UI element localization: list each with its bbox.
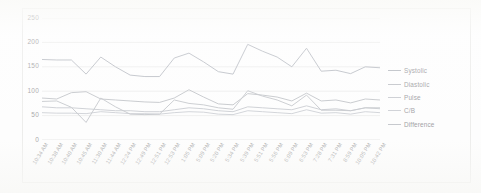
y-axis: 050100150200250 (20, 18, 39, 140)
chart-container: 050100150200250 10:34 AM10:38 AM10:40 AM… (0, 0, 481, 193)
legend-label: Systolic (404, 67, 427, 74)
legend-label: Pulse (404, 94, 421, 101)
legend-label: Difference (404, 121, 435, 128)
legend-item-systolic[interactable]: Systolic (388, 64, 468, 77)
series-line-diastolic (42, 90, 380, 105)
y-axis-tick-label: 150 (28, 63, 39, 70)
legend-item-pulse[interactable]: Pulse (388, 91, 468, 104)
series-line-systolic (42, 44, 380, 76)
legend-item-c-b[interactable]: C/B (388, 104, 468, 117)
y-axis-tick-label: 200 (28, 39, 39, 46)
legend-swatch-icon (388, 110, 401, 111)
y-axis-tick-label: 50 (31, 112, 39, 119)
legend-item-diastolic[interactable]: Diastolic (388, 77, 468, 90)
y-axis-tick-label: 0 (35, 137, 39, 144)
legend-item-difference[interactable]: Difference (388, 118, 468, 131)
y-axis-tick-label: 250 (28, 15, 39, 22)
gridlines (42, 18, 380, 140)
x-axis-tick-label: 7:31 PM (327, 142, 343, 163)
legend-swatch-icon (388, 124, 401, 125)
chart-legend: SystolicDiastolicPulseC/BDifference (388, 64, 468, 131)
y-axis-tick-label: 100 (28, 88, 39, 95)
chart-svg (42, 18, 380, 140)
x-axis: 10:34 AM10:38 AM10:40 AM10:45 AM11:30 AM… (42, 142, 380, 190)
legend-swatch-icon (388, 97, 401, 98)
x-axis-tick-label: 6:09 PM (283, 142, 299, 163)
legend-swatch-icon (388, 84, 401, 85)
legend-swatch-icon (388, 70, 401, 71)
series-lines (42, 44, 380, 122)
legend-label: Diastolic (404, 81, 430, 88)
legend-label: C/B (404, 107, 415, 114)
plot-area (42, 18, 380, 140)
